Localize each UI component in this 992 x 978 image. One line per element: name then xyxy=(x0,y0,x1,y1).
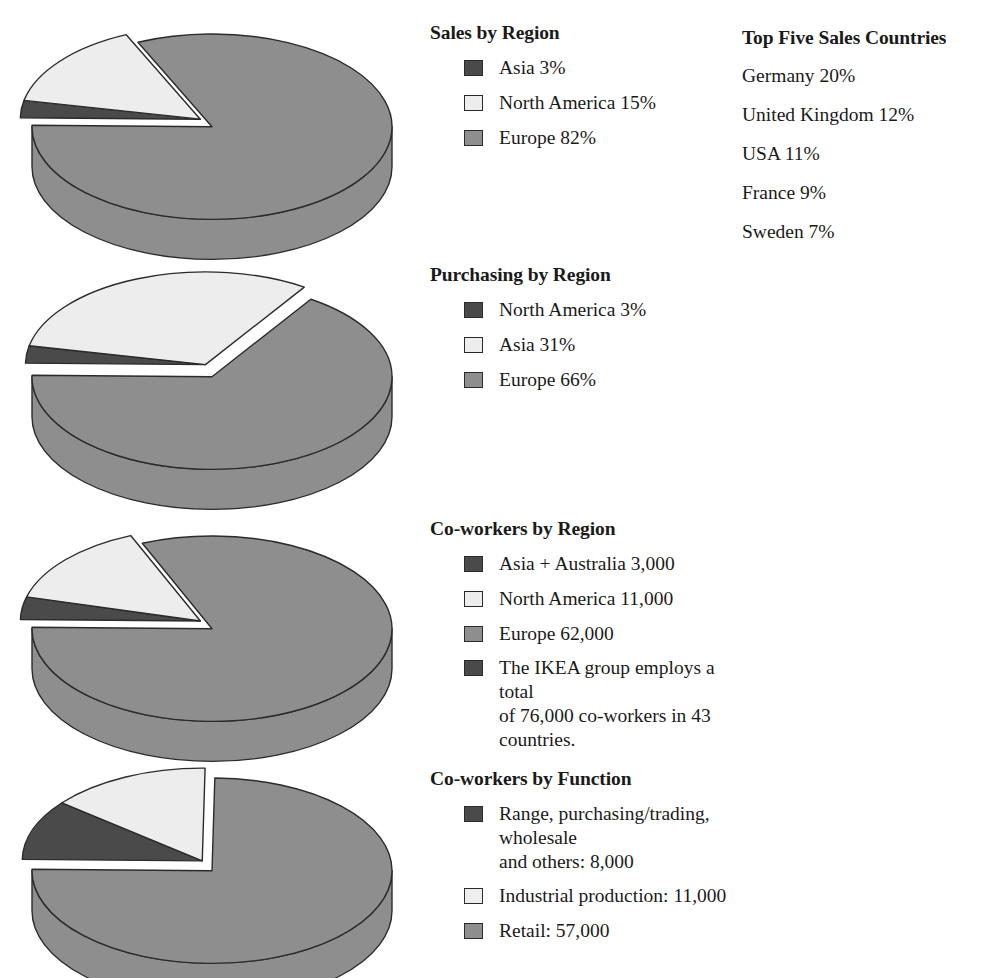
legend-swatch-mid xyxy=(464,372,483,388)
legend-heading: Purchasing by Region xyxy=(430,264,730,286)
legend-item: North America 11,000 xyxy=(464,587,730,611)
legend-purchasing-by-region: Purchasing by RegionNorth America 3%Asia… xyxy=(430,264,730,391)
legend-item: Retail: 57,000 xyxy=(464,919,730,943)
country-item: USA 11% xyxy=(742,143,992,165)
country-item: United Kingdom 12% xyxy=(742,104,992,126)
legend-item: Range, purchasing/trading, wholesale and… xyxy=(464,802,730,873)
legend-item: Asia + Australia 3,000 xyxy=(464,552,730,576)
legend-label: Asia 3% xyxy=(499,56,566,80)
legend-item: The IKEA group employs a total of 76,000… xyxy=(464,656,730,751)
legend-swatch-dark xyxy=(464,60,483,76)
legend-label: Asia 31% xyxy=(499,333,575,357)
legend-label: North America 15% xyxy=(499,91,656,115)
legend-swatch-mid xyxy=(464,923,483,939)
legend-item: Europe 62,000 xyxy=(464,622,730,646)
legend-co-workers-by-function: Co-workers by FunctionRange, purchasing/… xyxy=(430,768,730,943)
country-item: Sweden 7% xyxy=(742,221,992,243)
legend-item: Industrial production: 11,000 xyxy=(464,884,730,908)
legend-label: Europe 66% xyxy=(499,368,596,392)
countries-list: Germany 20%United Kingdom 12%USA 11%Fran… xyxy=(742,65,992,243)
legend-item: North America 3% xyxy=(464,298,730,322)
legend-item: North America 15% xyxy=(464,91,730,115)
legend-label: Europe 82% xyxy=(499,126,596,150)
legend-label: North America 11,000 xyxy=(499,587,673,611)
legend-label: Retail: 57,000 xyxy=(499,919,610,943)
country-item: France 9% xyxy=(742,182,992,204)
legend-heading: Co-workers by Region xyxy=(430,518,730,540)
pie-svg xyxy=(8,18,400,218)
legend-heading: Sales by Region xyxy=(430,22,730,44)
legend-swatch-light xyxy=(464,95,483,111)
legend-swatch-light xyxy=(464,888,483,904)
legend-item: Asia 31% xyxy=(464,333,730,357)
legend-swatch-dark xyxy=(464,806,483,822)
top-five-sales-countries: Top Five Sales Countries Germany 20%Unit… xyxy=(742,27,992,260)
legend-swatch-mid xyxy=(464,626,483,642)
countries-heading: Top Five Sales Countries xyxy=(742,27,992,49)
legend-item: Europe 82% xyxy=(464,126,730,150)
legend-rows: Asia + Australia 3,000North America 11,0… xyxy=(464,552,730,751)
pie-chart-co-workers-by-region xyxy=(8,520,418,720)
country-item: Germany 20% xyxy=(742,65,992,87)
legend-label: The IKEA group employs a total of 76,000… xyxy=(499,656,730,751)
pie-svg xyxy=(8,268,400,468)
pie-chart-co-workers-by-function xyxy=(8,762,418,962)
legend-swatch-light xyxy=(464,337,483,353)
legend-swatch-dark xyxy=(464,556,483,572)
legend-item: Europe 66% xyxy=(464,368,730,392)
legend-co-workers-by-region: Co-workers by RegionAsia + Australia 3,0… xyxy=(430,518,730,751)
legend-swatch-light xyxy=(464,591,483,607)
legend-sales-by-region: Sales by RegionAsia 3%North America 15%E… xyxy=(430,22,730,149)
pie-svg xyxy=(8,762,400,962)
pie-chart-sales-by-region xyxy=(8,18,418,218)
legend-heading: Co-workers by Function xyxy=(430,768,730,790)
legend-item: Asia 3% xyxy=(464,56,730,80)
legend-label: Range, purchasing/trading, wholesale and… xyxy=(499,802,730,873)
legend-rows: Range, purchasing/trading, wholesale and… xyxy=(464,802,730,943)
legend-rows: Asia 3%North America 15%Europe 82% xyxy=(464,56,730,149)
pie-svg xyxy=(8,520,400,720)
legend-label: North America 3% xyxy=(499,298,646,322)
legend-label: Asia + Australia 3,000 xyxy=(499,552,675,576)
ikea-statistics-page: Sales by RegionAsia 3%North America 15%E… xyxy=(0,0,992,978)
legend-rows: North America 3%Asia 31%Europe 66% xyxy=(464,298,730,391)
legend-swatch-mid xyxy=(464,130,483,146)
legend-swatch-dark xyxy=(464,302,483,318)
pie-chart-purchasing-by-region xyxy=(8,268,418,468)
legend-label: Europe 62,000 xyxy=(499,622,614,646)
legend-swatch-dark xyxy=(464,660,483,676)
legend-label: Industrial production: 11,000 xyxy=(499,884,726,908)
